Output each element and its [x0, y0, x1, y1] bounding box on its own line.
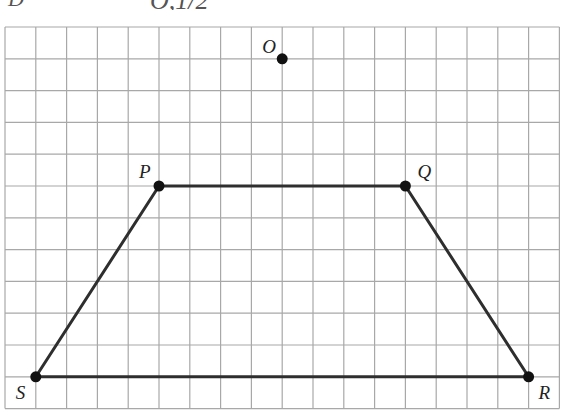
point-o [277, 53, 288, 64]
point-r [523, 371, 534, 382]
trapezoid-grid-figure: OPQRS [0, 0, 563, 420]
point-p [154, 181, 165, 192]
grid [5, 27, 559, 409]
label-s: S [16, 382, 26, 403]
label-q: Q [417, 161, 431, 182]
label-r: R [538, 382, 551, 403]
point-s [30, 371, 41, 382]
label-p: P [138, 161, 151, 182]
label-o: O [262, 36, 276, 57]
point-q [400, 181, 411, 192]
